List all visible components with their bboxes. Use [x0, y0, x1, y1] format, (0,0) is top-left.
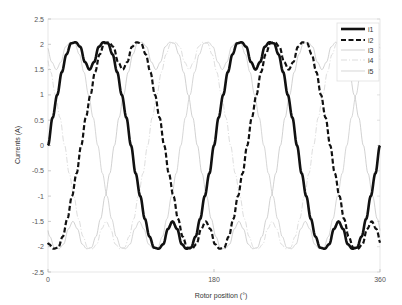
- legend-label: i1: [368, 26, 374, 33]
- x-tick-label: 0: [46, 276, 50, 283]
- y-tick-label: -2.5: [32, 269, 44, 276]
- y-tick-label: 0: [40, 142, 44, 149]
- x-tick-label: 180: [208, 276, 220, 283]
- legend-label: i5: [368, 68, 374, 75]
- x-tick-label: 360: [374, 276, 386, 283]
- x-axis-label: Rotor position (°): [195, 292, 248, 300]
- y-tick-label: 1.5: [34, 66, 44, 73]
- y-tick-label: -1.5: [32, 218, 44, 225]
- y-tick-label: -0.5: [32, 167, 44, 174]
- legend: i1 i2 i3 i4 i5: [337, 23, 379, 81]
- y-tick-label: -2: [38, 243, 44, 250]
- y-tick-label: 0.5: [34, 117, 44, 124]
- legend-label: i2: [368, 37, 374, 44]
- legend-label: i4: [368, 57, 374, 64]
- y-tick-label: 2.5: [34, 16, 44, 23]
- y-tick-label: 2: [40, 41, 44, 48]
- legend-label: i3: [368, 47, 374, 54]
- y-tick-label: -1: [38, 193, 44, 200]
- y-tick-label: 1: [40, 91, 44, 98]
- currents-chart: 2.521.510.50-0.5-1-1.5-2-2.5 0180360 Rot…: [0, 0, 402, 305]
- y-axis-label: Currents (A): [14, 126, 22, 164]
